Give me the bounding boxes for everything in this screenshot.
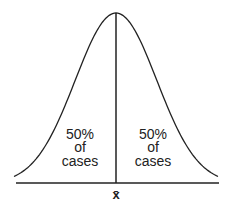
mean-label: x̄ (112, 187, 120, 202)
bell-curve-chart: 50% of cases 50% of cases x̄ (0, 0, 232, 211)
right-annotation-line-3: cases (135, 153, 172, 169)
left-annotation-line-3: cases (62, 153, 99, 169)
